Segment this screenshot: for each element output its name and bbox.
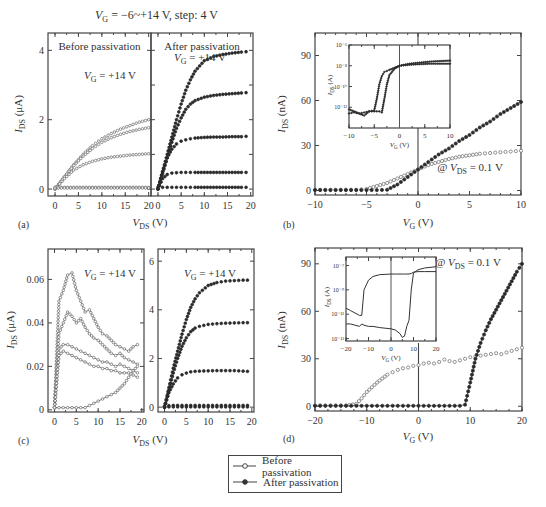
data-point — [472, 365, 475, 368]
x-tick-label: −10 — [344, 132, 355, 140]
data-point — [224, 280, 227, 283]
data-point — [415, 64, 417, 66]
data-point — [204, 287, 207, 290]
data-point — [510, 280, 513, 283]
data-point — [127, 350, 130, 353]
data-point — [73, 318, 76, 321]
data-point — [200, 186, 203, 189]
data-point — [491, 314, 494, 317]
data-point — [379, 111, 381, 113]
data-point — [85, 187, 88, 190]
data-point — [334, 188, 337, 191]
data-point — [90, 335, 93, 338]
data-point — [179, 107, 182, 110]
data-point — [175, 143, 178, 146]
data-point — [136, 365, 139, 368]
data-point — [375, 104, 377, 106]
data-point — [169, 151, 172, 154]
data-point — [185, 405, 188, 408]
data-point — [212, 171, 215, 174]
data-point — [62, 350, 65, 353]
data-point — [180, 140, 183, 143]
data-point — [138, 153, 141, 156]
data-point — [166, 156, 169, 159]
data-point — [394, 68, 396, 70]
panel-label: (a) — [18, 219, 29, 231]
data-point — [58, 354, 61, 357]
data-point — [61, 293, 64, 296]
data-point — [197, 136, 200, 139]
data-point — [165, 160, 168, 163]
panel-d: −20−10010200306090@ VDS = 0.1 VIDS (nA)V… — [275, 248, 527, 445]
data-point — [54, 399, 57, 402]
y-tick-label: 4 — [39, 45, 44, 56]
data-point — [171, 375, 174, 378]
data-point — [435, 63, 437, 65]
y-tick-label: 60 — [301, 306, 311, 317]
data-point — [218, 93, 221, 96]
data-point — [449, 60, 451, 62]
data-point — [405, 64, 407, 66]
x-tick-label: 15 — [115, 416, 125, 427]
data-point — [427, 361, 430, 364]
data-point — [375, 102, 377, 104]
data-point — [94, 142, 97, 145]
data-point — [129, 187, 132, 190]
data-point — [392, 178, 395, 181]
data-point — [381, 110, 383, 112]
data-point — [435, 60, 437, 62]
data-point — [90, 311, 93, 314]
data-point — [372, 185, 375, 188]
data-point — [192, 300, 195, 303]
data-point — [220, 369, 223, 372]
data-point — [413, 170, 416, 173]
data-point — [110, 339, 113, 342]
data-point — [373, 111, 375, 113]
data-point — [57, 303, 60, 306]
legend-label: After passivation — [263, 476, 338, 488]
data-point — [175, 186, 178, 189]
data-point — [114, 354, 117, 357]
data-point — [475, 128, 478, 131]
data-point — [391, 371, 394, 374]
data-point — [386, 404, 389, 407]
data-point — [242, 405, 245, 408]
data-point — [427, 61, 429, 63]
data-point — [246, 279, 249, 282]
data-point — [113, 187, 116, 190]
data-point — [97, 187, 100, 190]
data-point — [429, 63, 431, 65]
data-point — [228, 93, 231, 96]
data-point — [57, 310, 60, 313]
legend-item-before: Before passivation — [233, 459, 341, 473]
data-point — [407, 404, 410, 407]
data-point — [58, 332, 61, 335]
data-point — [465, 399, 468, 402]
data-point — [186, 315, 189, 318]
data-point — [184, 322, 187, 325]
data-point — [380, 188, 383, 191]
data-point — [201, 289, 204, 292]
data-point — [470, 373, 473, 376]
data-point — [508, 283, 511, 286]
data-point — [123, 372, 126, 375]
data-point — [180, 348, 183, 351]
data-point — [157, 186, 160, 189]
data-point — [110, 363, 113, 366]
series-line — [55, 312, 138, 408]
data-point — [194, 297, 197, 300]
data-point — [439, 60, 441, 62]
x-tick-label: −10 — [363, 345, 374, 353]
data-point — [489, 318, 492, 321]
data-point — [65, 314, 68, 317]
data-point — [126, 125, 129, 128]
data-point — [101, 398, 104, 401]
data-point — [444, 149, 447, 152]
data-point — [501, 295, 504, 298]
data-point — [451, 144, 454, 147]
data-point — [376, 111, 378, 113]
data-point — [108, 350, 111, 353]
data-point — [113, 135, 116, 138]
vds-annotation: @ VDS = 0.1 V — [435, 256, 501, 271]
figure-canvas: 05101520024Before passivationVG = +14 V0… — [0, 0, 546, 507]
